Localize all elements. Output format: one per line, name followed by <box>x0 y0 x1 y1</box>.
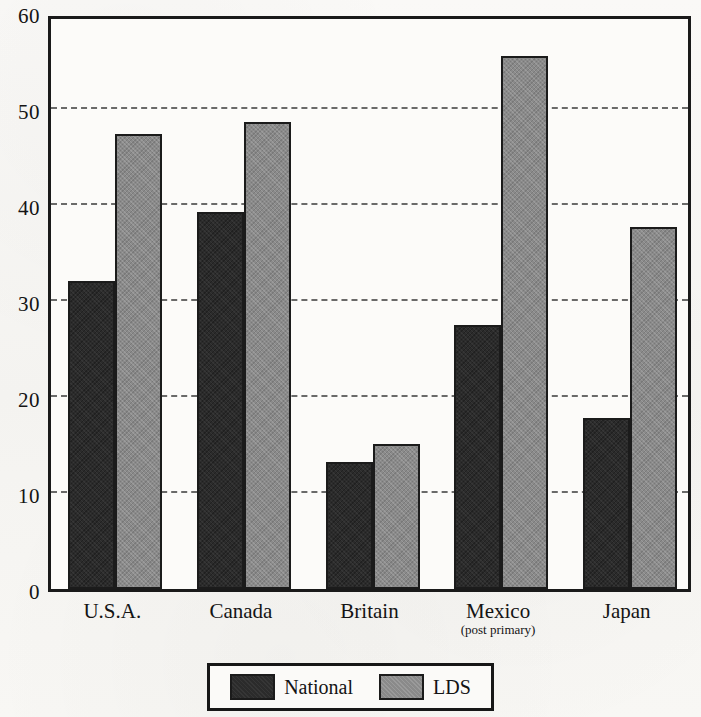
category-label-text: U.S.A. <box>83 599 141 623</box>
legend-label-text: National <box>284 676 353 699</box>
category-label-usa: U.S.A. <box>48 600 177 622</box>
bar-usa-national <box>68 281 115 589</box>
plot-area <box>48 16 691 592</box>
category-label-text: Britain <box>340 599 398 623</box>
chart-legend: NationalLDS <box>207 663 494 711</box>
y-axis-tick-label: 30 <box>0 292 40 317</box>
legend-entry-national: National <box>230 674 353 700</box>
category-label-mexico: Mexico(post primary) <box>434 600 563 637</box>
y-axis-tick-label: 60 <box>0 4 40 29</box>
category-label-text: Japan <box>603 599 651 623</box>
y-axis-tick-label: 50 <box>0 100 40 125</box>
category-label-canada: Canada <box>177 600 306 622</box>
gridline <box>51 107 688 109</box>
legend-label-text: LDS <box>433 676 471 699</box>
bar-japan-national <box>583 418 630 589</box>
bar-britain-national <box>326 462 373 589</box>
category-label-japan: Japan <box>562 600 691 622</box>
y-axis-tick-label: 40 <box>0 196 40 221</box>
legend-swatch-national <box>230 674 275 700</box>
bar-japan-lds <box>630 227 677 589</box>
bar-mexico-national <box>454 325 501 589</box>
legend-swatch-lds <box>379 674 424 700</box>
category-label-britain: Britain <box>305 600 434 622</box>
bar-canada-lds <box>244 122 291 589</box>
legend-entry-lds: LDS <box>379 674 471 700</box>
bar-canada-national <box>197 212 244 589</box>
category-label-text: Canada <box>209 599 272 623</box>
bar-britain-lds <box>373 444 420 589</box>
y-axis: 0102030405060 <box>0 16 40 592</box>
y-axis-tick-label: 0 <box>0 580 40 605</box>
y-axis-tick-label: 20 <box>0 388 40 413</box>
bar-mexico-lds <box>501 56 548 589</box>
y-axis-tick-label: 10 <box>0 484 40 509</box>
category-sublabel-text: (post primary) <box>434 623 563 637</box>
bar-usa-lds <box>115 134 162 589</box>
category-label-text: Mexico <box>466 599 530 623</box>
bar-chart: 0102030405060 U.S.A.CanadaBritainMexico(… <box>0 0 701 717</box>
